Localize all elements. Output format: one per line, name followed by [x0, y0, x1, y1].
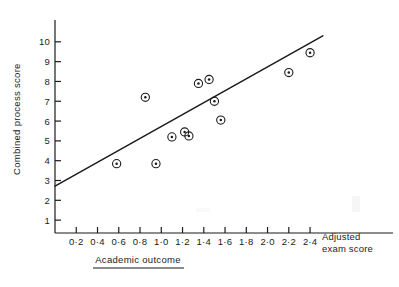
scatter-plot-figure: 12345678910 0·20·40·60·81·01·21·41·61·82… [0, 0, 399, 287]
data-point [306, 49, 314, 57]
data-point-group [113, 49, 315, 168]
x-tick-label: 1·8 [239, 236, 253, 247]
y-tick-label: 9 [45, 56, 50, 67]
data-point-centre [171, 136, 174, 139]
y-tick-label: 10 [39, 36, 50, 47]
x-tick-label: 1·4 [197, 236, 211, 247]
y-tick-group: 12345678910 [39, 36, 61, 225]
x-tick-label: 0·8 [133, 236, 147, 247]
x-tick-label: 1·0 [154, 236, 168, 247]
y-tick-label: 5 [45, 135, 50, 146]
data-point-centre [188, 135, 191, 138]
data-point [168, 133, 176, 141]
y-tick-label: 1 [45, 215, 50, 226]
data-point [141, 93, 149, 101]
x-tick-label: 0·2 [69, 236, 83, 247]
x-tick-label: 2·0 [260, 236, 274, 247]
y-tick-label: 6 [45, 116, 50, 127]
x-tick-label: 1·2 [175, 236, 189, 247]
data-point [217, 116, 225, 124]
x-axis-title: Academic outcome [95, 254, 181, 265]
y-tick-label: 3 [45, 175, 50, 186]
data-point-centre [144, 96, 147, 99]
data-point [113, 160, 121, 168]
x-tick-label: 1·6 [218, 236, 232, 247]
data-point [285, 68, 293, 76]
data-point-centre [288, 71, 291, 74]
y-tick-label: 2 [45, 195, 50, 206]
data-point-centre [220, 119, 223, 122]
data-point-centre [208, 78, 211, 81]
data-point [210, 97, 218, 105]
x-tick-label: 2·4 [303, 236, 317, 247]
data-point-centre [115, 162, 118, 165]
regression-line-group [55, 36, 323, 186]
data-point [152, 160, 160, 168]
y-tick-label: 8 [45, 76, 50, 87]
y-axis-title: Combined process score [11, 63, 22, 175]
data-point [205, 75, 213, 83]
x-tick-group: 0·20·40·60·81·01·21·41·61·82·02·22·4 [69, 227, 317, 247]
data-point-centre [213, 100, 216, 103]
x-axis-right-title-line2: exam score [322, 243, 373, 254]
plot-canvas: 12345678910 0·20·40·60·81·01·21·41·61·82… [0, 0, 399, 287]
x-tick-label: 0·6 [112, 236, 126, 247]
x-axis-right-title-line1: Adjusted [322, 231, 361, 242]
data-point [194, 79, 202, 87]
axes-group [55, 20, 393, 233]
regression-line [55, 36, 323, 186]
x-tick-label: 2·2 [282, 236, 296, 247]
data-point-centre [309, 51, 312, 54]
data-point-centre [155, 162, 158, 165]
data-point-centre [197, 82, 200, 85]
y-tick-label: 7 [45, 96, 50, 107]
x-tick-label: 0·4 [90, 236, 104, 247]
y-tick-label: 4 [45, 155, 50, 166]
